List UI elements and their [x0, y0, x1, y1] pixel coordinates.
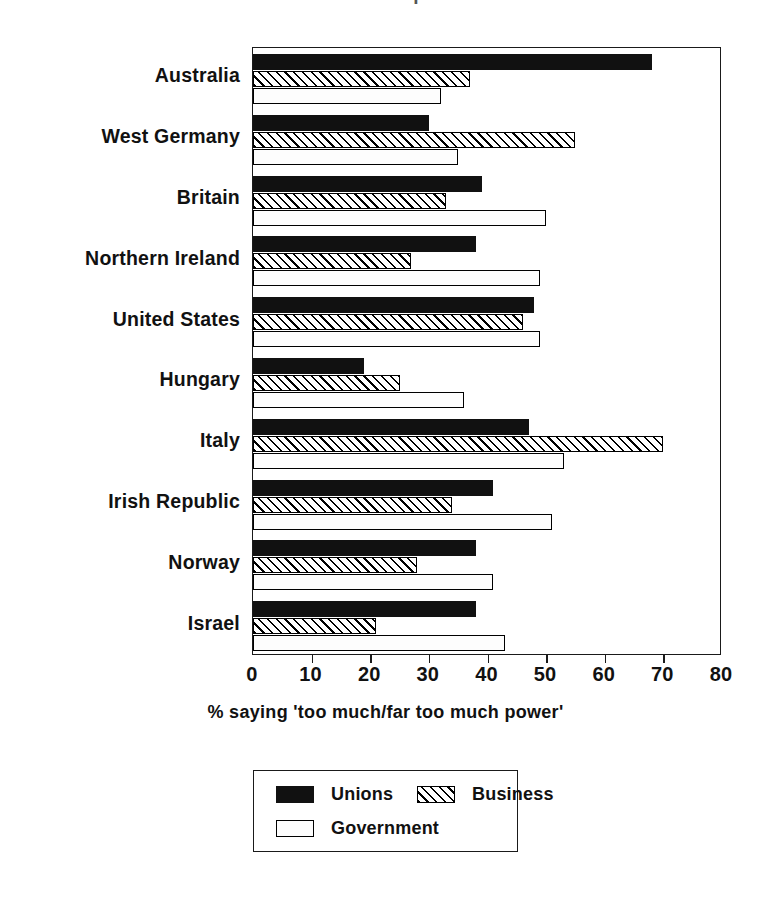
bar-business	[253, 618, 376, 634]
bar-unions	[253, 54, 652, 70]
bar-government	[253, 149, 458, 165]
x-axis-tick	[663, 654, 665, 663]
x-axis-title: % saying 'too much/far too much power'	[0, 702, 771, 723]
x-tick-label: 20	[339, 663, 399, 686]
clipped-title-text: attitudes to power	[0, 0, 771, 5]
bar-government	[253, 392, 464, 408]
legend-item: Unions	[276, 779, 393, 809]
plot-area	[252, 47, 721, 655]
category-label: Israel	[0, 612, 240, 635]
bar-government	[253, 635, 505, 651]
x-tick-label: 40	[457, 663, 517, 686]
x-tick-label: 10	[281, 663, 341, 686]
bar-business	[253, 132, 575, 148]
bar-unions	[253, 176, 482, 192]
bar-group	[253, 352, 720, 413]
bar-business	[253, 71, 470, 87]
clipped-title-remnant: attitudes to power	[0, 0, 771, 14]
bar-unions	[253, 601, 476, 617]
category-label: Britain	[0, 186, 240, 209]
bar-government	[253, 574, 493, 590]
legend-label: Unions	[331, 784, 393, 805]
bar-government	[253, 514, 552, 530]
bar-business	[253, 436, 663, 452]
legend-swatch-government	[276, 820, 314, 837]
x-tick-label: 70	[632, 663, 692, 686]
legend-swatch-unions	[276, 786, 314, 803]
bar-group	[253, 534, 720, 595]
bar-unions	[253, 358, 364, 374]
x-axis-tick	[605, 654, 607, 663]
bar-unions	[253, 419, 529, 435]
legend-label: Business	[472, 784, 554, 805]
bar-government	[253, 453, 564, 469]
bar-government	[253, 210, 546, 226]
category-label: Irish Republic	[0, 490, 240, 513]
x-axis-tick	[488, 654, 490, 663]
bar-business	[253, 314, 523, 330]
x-tick-label: 0	[222, 663, 282, 686]
bar-business	[253, 253, 411, 269]
category-label: Hungary	[0, 368, 240, 391]
category-label: Italy	[0, 429, 240, 452]
bar-group	[253, 109, 720, 170]
bar-unions	[253, 236, 476, 252]
legend-label: Government	[331, 818, 439, 839]
bar-government	[253, 270, 540, 286]
bar-business	[253, 497, 452, 513]
category-label: West Germany	[0, 125, 240, 148]
bar-unions	[253, 480, 493, 496]
bar-group	[253, 595, 720, 656]
legend-swatch-business	[417, 786, 455, 803]
x-tick-label: 30	[398, 663, 458, 686]
category-label: Norway	[0, 551, 240, 574]
legend-item: Business	[417, 779, 554, 809]
bar-government	[253, 88, 441, 104]
bar-business	[253, 375, 400, 391]
x-tick-label: 80	[691, 663, 751, 686]
x-tick-label: 50	[515, 663, 575, 686]
x-tick-label: 60	[574, 663, 634, 686]
category-label: United States	[0, 308, 240, 331]
bar-business	[253, 557, 417, 573]
bar-business	[253, 193, 446, 209]
bar-group	[253, 230, 720, 291]
x-axis-tick	[429, 654, 431, 663]
bar-group	[253, 291, 720, 352]
bar-group	[253, 48, 720, 109]
bar-group	[253, 170, 720, 231]
legend-item: Government	[276, 813, 439, 843]
category-label: Australia	[0, 64, 240, 87]
bar-government	[253, 331, 540, 347]
bar-unions	[253, 297, 534, 313]
chart-legend: UnionsBusinessGovernment	[253, 770, 518, 852]
x-axis-tick	[312, 654, 314, 663]
bar-unions	[253, 115, 429, 131]
bar-unions	[253, 540, 476, 556]
category-label: Northern Ireland	[0, 247, 240, 270]
x-axis-tick	[546, 654, 548, 663]
bar-group	[253, 474, 720, 535]
x-axis-tick	[370, 654, 372, 663]
bar-group	[253, 413, 720, 474]
